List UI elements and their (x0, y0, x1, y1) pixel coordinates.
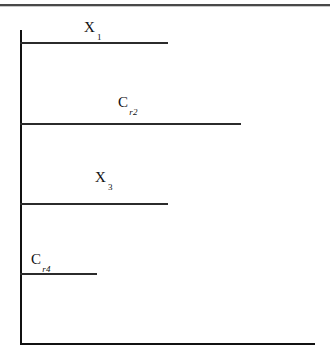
bar-label-cr2-base: C (118, 94, 128, 110)
bar-cr2 (20, 123, 241, 125)
bar-label-x1-base: X (84, 19, 95, 35)
bar-cr4 (20, 273, 97, 275)
bar-label-x3-base: X (95, 169, 106, 185)
bar-label-cr4-sub: r4 (42, 264, 50, 274)
bar-label-x1: X1 (84, 20, 100, 38)
bar-label-x3-sub: 3 (108, 182, 113, 192)
page-top-rule-shadow (0, 6, 330, 7)
bar-label-cr4: Cr4 (31, 252, 50, 270)
bar-label-x3: X3 (95, 170, 111, 188)
figure-root: X1 Cr2 X3 Cr4 (0, 0, 330, 360)
bar-x1 (20, 42, 168, 44)
bar-label-x1-sub: 1 (97, 32, 102, 42)
bar-label-cr4-base: C (31, 251, 41, 267)
bar-x3 (20, 203, 168, 205)
x-axis (20, 343, 315, 345)
bar-label-cr2: Cr2 (118, 95, 137, 113)
y-axis (20, 30, 22, 345)
bar-label-cr2-sub: r2 (129, 107, 137, 117)
